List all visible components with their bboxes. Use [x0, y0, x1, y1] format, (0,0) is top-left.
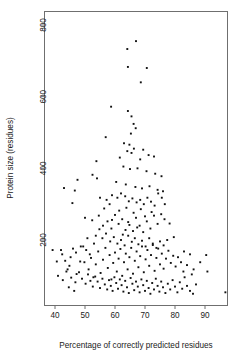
data-point [140, 278, 142, 280]
x-tick-label: 50 [80, 311, 90, 320]
data-point [94, 276, 96, 278]
data-point [162, 286, 164, 288]
data-point [103, 208, 105, 210]
data-point [184, 276, 186, 278]
data-point [139, 158, 141, 160]
data-point [56, 261, 58, 263]
data-point [133, 148, 135, 150]
data-point [113, 276, 115, 278]
data-point [77, 179, 79, 181]
data-point [131, 152, 133, 154]
data-point [137, 286, 139, 288]
data-point [154, 205, 156, 207]
data-point [175, 266, 177, 268]
data-point [182, 271, 184, 273]
data-point [75, 252, 77, 254]
data-point [155, 278, 157, 280]
data-point [82, 246, 84, 248]
y-tick-label: 200 [39, 233, 48, 247]
data-point [146, 170, 148, 172]
data-point [169, 289, 171, 291]
data-point [100, 272, 102, 274]
data-point [186, 264, 188, 266]
data-point [72, 248, 74, 250]
data-point [85, 249, 87, 251]
data-point [70, 277, 72, 279]
data-point [169, 223, 171, 225]
data-point [105, 136, 107, 138]
data-point [119, 157, 121, 159]
data-point [141, 240, 143, 242]
data-point [205, 254, 207, 256]
data-point [118, 223, 120, 225]
data-point [153, 156, 155, 158]
data-point [141, 187, 143, 189]
data-point [121, 284, 123, 286]
data-point [105, 233, 107, 235]
data-point [123, 261, 125, 263]
data-point [123, 142, 125, 144]
data-point [143, 203, 145, 205]
data-point [125, 229, 127, 231]
data-point [164, 203, 166, 205]
data-point [136, 201, 138, 203]
data-point [95, 263, 97, 265]
data-point [135, 127, 137, 129]
y-tick-label: 600 [39, 89, 48, 103]
data-point [139, 225, 141, 227]
data-point [189, 290, 191, 292]
data-point [101, 278, 103, 280]
x-tick-label: 40 [50, 311, 60, 320]
data-point [157, 192, 159, 194]
data-point [76, 273, 78, 275]
data-point [118, 210, 120, 212]
data-point [140, 81, 142, 83]
data-point [130, 133, 132, 135]
data-point [74, 281, 76, 283]
data-point [83, 261, 85, 263]
data-point [106, 199, 108, 201]
data-point [154, 270, 156, 272]
data-point [122, 166, 124, 168]
data-point [142, 231, 144, 233]
data-point [71, 202, 73, 204]
data-point [159, 263, 161, 265]
data-point [153, 215, 155, 217]
data-point [91, 219, 93, 221]
data-point [148, 287, 150, 289]
data-point [92, 276, 94, 278]
data-point [181, 288, 183, 290]
data-point [134, 237, 136, 239]
data-point [146, 280, 148, 282]
data-point [111, 219, 113, 221]
x-tick-label: 70 [140, 311, 150, 320]
data-point [134, 260, 136, 262]
data-point [106, 289, 108, 291]
data-point [133, 212, 135, 214]
data-point [87, 273, 89, 275]
data-point [163, 268, 165, 270]
data-point [81, 278, 83, 280]
data-point [148, 237, 150, 239]
data-point [114, 252, 116, 254]
data-point [155, 247, 157, 249]
data-point [151, 282, 153, 284]
data-point [172, 255, 174, 257]
data-point [159, 240, 161, 242]
data-point [89, 253, 91, 255]
data-point [139, 199, 141, 201]
data-point [167, 283, 169, 285]
data-point [155, 257, 157, 259]
data-point [111, 194, 113, 196]
x-tick-label: 60 [110, 311, 120, 320]
data-point [126, 150, 128, 152]
data-point [127, 66, 129, 68]
data-point [73, 290, 75, 292]
data-point [62, 279, 64, 281]
data-point [149, 228, 151, 230]
data-point [189, 253, 191, 255]
data-point [149, 293, 151, 295]
data-point [126, 48, 128, 50]
data-point [93, 243, 95, 245]
data-point [170, 262, 172, 264]
